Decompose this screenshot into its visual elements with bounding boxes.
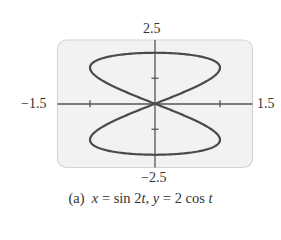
caption-sep: , bbox=[146, 190, 153, 206]
caption-tag: (a) bbox=[68, 190, 84, 206]
x-min-label: −1.5 bbox=[21, 97, 46, 111]
caption-t2: t bbox=[208, 190, 212, 206]
y-min-label: −2.5 bbox=[141, 171, 166, 185]
caption-x-expr: = sin 2 bbox=[98, 190, 141, 206]
caption-y-expr: = 2 cos bbox=[159, 190, 208, 206]
x-max-label: 1.5 bbox=[257, 97, 275, 111]
figure-caption: (a) x = sin 2t, y = 2 cos t bbox=[0, 190, 281, 207]
y-max-label: 2.5 bbox=[143, 22, 161, 36]
